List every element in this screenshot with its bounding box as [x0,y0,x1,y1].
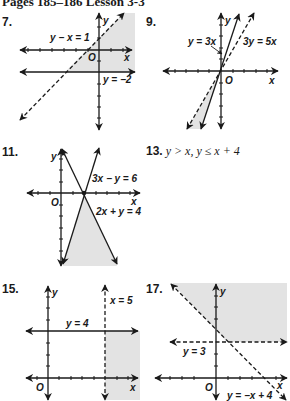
graph-7-y-label: y [102,15,109,26]
graph-7-origin-label: O [88,52,96,63]
graph-7: y − x = 1 y = −2 y x O [20,13,135,130]
graph-11-y-label: y [50,151,57,162]
graph-11-label-line2: 2x + y = 4 [95,206,141,217]
graph-9-origin-label: O [225,75,233,86]
graph-7-label-line1: y − x = 1 [49,32,90,43]
graph-9: y = 3x 3y = 5x y x O [163,13,278,129]
graph-9-label-line2: 3y = 5x [243,36,277,47]
graph-15-x-label: x [129,382,136,393]
graphs-canvas: y − x = 1 y = −2 y x O y = 3x 3y = 5x y … [0,0,290,401]
graph-17-y-label: y [219,286,226,297]
graph-11-label-line1: 3x − y = 6 [92,173,137,184]
graph-15-label-line1: x = 5 [109,295,133,306]
graph-9-y-label: y [224,15,231,26]
graph-17-x-label: x [276,380,283,391]
graph-11: 3x − y = 6 2x + y = 4 y x O [27,148,141,266]
graph-17-shaded-region [172,283,287,342]
graph-11-shaded-region [63,193,117,266]
graph-15: x = 5 y = 4 y x O [26,285,140,400]
graph-17-label-line2: y = −x + 4 [226,390,273,401]
graph-15-y-label: y [51,287,58,298]
graph-17-label-line1: y = 3 [182,346,206,357]
graph-9-label-line1: y = 3x [187,36,217,47]
graph-15-origin-label: O [36,382,44,393]
graph-9-x-label: x [268,75,275,86]
graph-15-label-line2: y = 4 [65,318,89,329]
graph-17-origin-label: O [205,382,213,393]
graph-7-label-line2: y = −2 [102,74,132,85]
graph-11-origin-label: O [51,197,59,208]
graph-17: y = 3 y = −x + 4 y x O [155,283,287,401]
graph-11-intersection-point [82,191,86,195]
graph-7-x-label: x [123,52,130,63]
graph-11-x-label: x [130,196,137,207]
